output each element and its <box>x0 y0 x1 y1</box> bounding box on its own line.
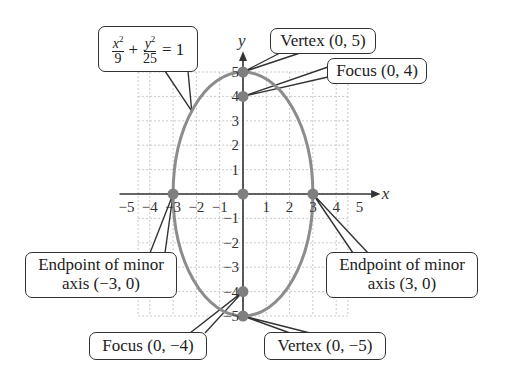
x-tick-label: 2 <box>286 199 294 215</box>
y-axis-arrow-icon <box>239 51 247 61</box>
equals-one: = 1 <box>162 40 184 59</box>
y-fraction: y2 25 <box>142 32 158 66</box>
y-exponent: 2 <box>151 34 156 44</box>
focus-bottom-callout: Focus (0, −4) <box>89 332 207 360</box>
point-marker <box>238 67 249 78</box>
point-marker <box>238 286 249 297</box>
y-tick-label: −5 <box>223 308 239 324</box>
x-tick-label: 1 <box>263 199 271 215</box>
y-tick-label: −1 <box>223 210 239 226</box>
equation-callout: x2 9 + y2 25 = 1 <box>98 26 198 72</box>
minor-left-line1: Endpoint of minor <box>32 255 170 274</box>
y-tick-label: −4 <box>223 284 239 300</box>
x-tick-label: 3 <box>309 199 317 215</box>
point-marker <box>238 91 249 102</box>
y-tick-label: 1 <box>232 162 240 178</box>
x-tick-label: −3 <box>165 199 181 215</box>
point-marker <box>168 189 179 200</box>
x-tick-label: −5 <box>119 199 135 215</box>
x-axis-arrow-icon <box>371 190 380 198</box>
minor-left-line2: axis (−3, 0) <box>32 274 170 293</box>
minor-right-line1: Endpoint of minor <box>333 255 471 274</box>
x-fraction: x2 9 <box>112 32 125 66</box>
point-marker <box>238 189 249 200</box>
vertex-bottom-leader <box>243 316 310 333</box>
point-marker <box>238 311 249 322</box>
point-marker <box>307 189 318 200</box>
vertex-bottom-callout: Vertex (0, −5) <box>264 332 386 360</box>
equation-leader <box>165 71 192 111</box>
y-tick-label: 5 <box>232 64 240 80</box>
y-tick-label: 2 <box>232 137 240 153</box>
y-tick-label: 4 <box>232 88 240 104</box>
x-tick-label: 5 <box>356 199 364 215</box>
y-denominator: 25 <box>142 52 158 66</box>
vertex-top-callout: Vertex (0, 5) <box>270 28 376 54</box>
y-axis-label: y <box>236 31 246 50</box>
y-tick-label: −3 <box>223 259 239 275</box>
y-tick-label: 3 <box>232 113 240 129</box>
minor-axis-right-callout: Endpoint of minor axis (3, 0) <box>326 252 478 298</box>
y-tick-label: −2 <box>223 235 239 251</box>
x-denominator: 9 <box>114 52 123 66</box>
vertex-top-leader <box>243 53 300 72</box>
focus-top-callout: Focus (0, 4) <box>327 58 427 84</box>
x-tick-label: −4 <box>142 199 158 215</box>
ellipse-figure: −5−4−3−2−11234554321−1−2−3−4−5 x y x2 9 … <box>0 0 505 391</box>
focus-top-leader <box>243 67 328 96</box>
minor-axis-left-callout: Endpoint of minor axis (−3, 0) <box>25 252 177 298</box>
x-axis-label: x <box>381 184 390 203</box>
plot-area: −5−4−3−2−11234554321−1−2−3−4−5 x y <box>0 0 505 391</box>
plus-sign: + <box>128 40 138 59</box>
minor-right-line2: axis (3, 0) <box>333 274 471 293</box>
x-tick-label: −2 <box>188 199 204 215</box>
x-exponent: 2 <box>119 34 124 44</box>
x-tick-label: 4 <box>332 199 340 215</box>
